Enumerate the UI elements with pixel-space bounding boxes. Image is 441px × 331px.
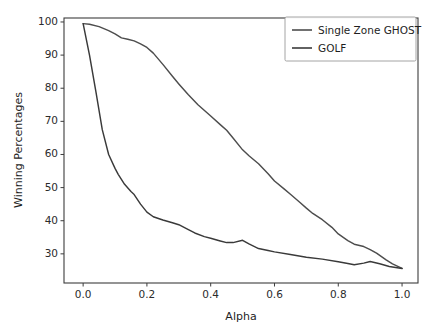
chart-figure: 30405060708090100 0.00.20.40.60.81.0 Alp…: [0, 0, 441, 331]
y-tick-label: 60: [45, 147, 58, 159]
x-tick-label: 0.4: [202, 288, 219, 300]
chart-legend[interactable]: Single Zone GHOSTGOLF: [285, 17, 422, 61]
y-tick-label: 50: [45, 181, 58, 193]
x-axis-label: Alpha: [225, 310, 256, 323]
legend-label-1[interactable]: GOLF: [318, 42, 346, 54]
legend-label-0[interactable]: Single Zone GHOST: [318, 24, 422, 36]
y-tick-label: 70: [45, 114, 58, 126]
x-tick-label: 1.0: [394, 288, 411, 300]
x-tick-label: 0.0: [75, 288, 92, 300]
y-tick-label: 40: [45, 214, 58, 226]
line-chart-svg: 30405060708090100 0.00.20.40.60.81.0 Alp…: [0, 0, 441, 331]
x-tick-label: 0.8: [330, 288, 347, 300]
y-tick-label: 80: [45, 81, 58, 93]
y-tick-label: 90: [45, 48, 58, 60]
x-tick-label: 0.6: [266, 288, 283, 300]
y-axis-label: Winning Percentages: [12, 92, 25, 208]
x-tick-label: 0.2: [139, 288, 156, 300]
y-tick-label: 30: [45, 247, 58, 259]
y-tick-label: 100: [38, 15, 58, 27]
